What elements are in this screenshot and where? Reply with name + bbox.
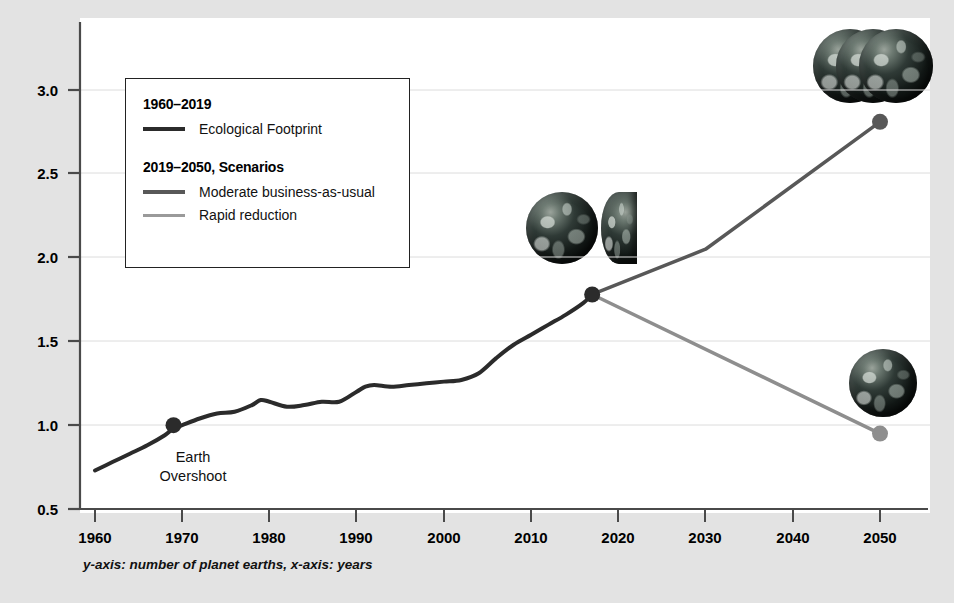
chart-root: 3.0 2.5 2.0 1.5 1.0 0.5 1960 1970 1980 1… — [0, 0, 954, 603]
x-tick-label: 2030 — [688, 529, 721, 546]
y-tick-label: 2.5 — [37, 165, 58, 182]
series-line-ecological-footprint — [95, 294, 592, 470]
legend-heading-historic: 1960–2019 — [143, 96, 409, 112]
x-tick-label: 2050 — [863, 529, 896, 546]
legend-swatch-business-as-usual — [143, 190, 185, 194]
legend-swatch-ecological-footprint — [143, 127, 185, 131]
earth-overshoot-line1: Earth — [148, 448, 238, 467]
earth-overshoot-marker — [166, 417, 182, 433]
legend-label-ecological-footprint: Ecological Footprint — [199, 121, 322, 137]
legend-swatch-rapid-reduction — [143, 214, 185, 217]
x-tick-label: 1970 — [165, 529, 198, 546]
branch-point-marker — [584, 286, 600, 302]
y-tick-label: 1.0 — [37, 417, 58, 434]
y-tick-label: 2.0 — [37, 249, 58, 266]
y-tick-label: 0.5 — [37, 501, 58, 518]
legend-item-business-as-usual[interactable]: Moderate business-as-usual — [143, 184, 409, 200]
x-tick-label: 1960 — [78, 529, 111, 546]
legend-label-rapid-reduction: Rapid reduction — [199, 207, 297, 223]
business-as-usual-endpoint-marker — [872, 114, 888, 130]
y-axis-tick-labels: 3.0 2.5 2.0 1.5 1.0 0.5 — [37, 82, 58, 518]
x-tick-label: 2010 — [514, 529, 547, 546]
x-tick-label: 2020 — [601, 529, 634, 546]
y-tick-label: 1.5 — [37, 333, 58, 350]
earth-overshoot-line2: Overshoot — [148, 467, 238, 486]
x-tick-label: 1990 — [339, 529, 372, 546]
legend-label-business-as-usual: Moderate business-as-usual — [199, 184, 375, 200]
legend-item-rapid-reduction[interactable]: Rapid reduction — [143, 207, 409, 223]
legend-heading-scenarios: 2019–2050, Scenarios — [143, 159, 409, 175]
x-axis-ticks — [95, 509, 880, 522]
x-axis-tick-labels: 1960 1970 1980 1990 2000 2010 2020 2030 … — [78, 529, 896, 546]
series-line-business-as-usual — [592, 122, 880, 295]
chart-caption: y-axis: number of planet earths, x-axis:… — [83, 557, 373, 572]
x-tick-label: 1980 — [252, 529, 285, 546]
rapid-reduction-endpoint-marker — [872, 426, 888, 442]
y-axis-ticks — [68, 90, 80, 509]
x-tick-label: 2040 — [776, 529, 809, 546]
x-tick-label: 2000 — [427, 529, 460, 546]
series-line-rapid-reduction — [592, 294, 880, 433]
y-tick-label: 3.0 — [37, 82, 58, 99]
chart-legend: 1960–2019 Ecological Footprint 2019–2050… — [125, 78, 410, 268]
legend-item-ecological-footprint[interactable]: Ecological Footprint — [143, 121, 409, 137]
earth-overshoot-annotation: Earth Overshoot — [148, 448, 238, 485]
